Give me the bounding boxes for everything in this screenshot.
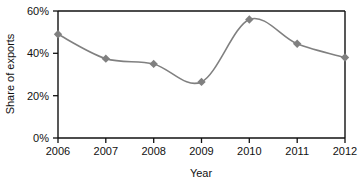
y-axis-title: Share of exports <box>4 33 16 114</box>
x-tick-label-2010: 2010 <box>237 145 261 157</box>
chart-svg: 0% 20% 40% 60% 2006 2007 2008 2009 2010 … <box>0 0 362 184</box>
y-tick-label-20: 20% <box>27 90 49 102</box>
x-tick-label-2011: 2011 <box>285 145 309 157</box>
y-tick-label-0: 0% <box>33 132 49 144</box>
y-tick-label-60: 60% <box>27 5 49 17</box>
x-tick-label-2008: 2008 <box>141 145 165 157</box>
x-axis-title: Year <box>190 167 213 179</box>
x-tick-label-2006: 2006 <box>46 145 70 157</box>
x-tick-label-2012: 2012 <box>333 145 357 157</box>
x-tick-label-2009: 2009 <box>189 145 213 157</box>
line-chart: 0% 20% 40% 60% 2006 2007 2008 2009 2010 … <box>0 0 362 184</box>
y-tick-label-40: 40% <box>27 47 49 59</box>
x-tick-label-2007: 2007 <box>94 145 118 157</box>
